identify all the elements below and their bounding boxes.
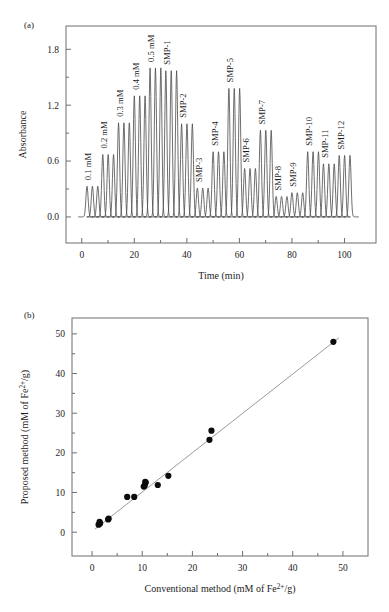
y-tick-label: 20 — [56, 448, 66, 458]
x-tick-label: 40 — [182, 250, 192, 260]
y-tick-label: 0.6 — [47, 156, 59, 166]
chromatogram-plot: 0.00.61.21.8020406080100Time (min)Absorb… — [0, 0, 389, 300]
data-point — [165, 473, 171, 479]
peak-group-label: 0.2 mM — [99, 121, 109, 149]
x-axis-title: Time (min) — [198, 270, 243, 282]
peak-group-label: SMP-10 — [304, 117, 314, 146]
peak-group-label: SMP-5 — [225, 58, 235, 82]
peak-group-label: 0.1 mM — [83, 153, 93, 181]
regression-line — [95, 338, 339, 529]
y-tick-label: 1.2 — [47, 101, 59, 111]
peak-group-label: SMP-11 — [320, 129, 330, 157]
data-point — [330, 339, 336, 345]
x-tick-label: 100 — [337, 250, 352, 260]
data-point — [131, 494, 137, 500]
x-tick-label: 20 — [188, 563, 198, 573]
method-comparison-plot: 0102030405001020304050Conventional metho… — [0, 296, 389, 612]
peak-group-label: SMP-9 — [288, 162, 298, 186]
peak-group-label: SMP-6 — [241, 137, 251, 162]
x-tick-label: 50 — [338, 563, 348, 573]
x-axis-title: Conventional method (mM of Fe2+/g) — [145, 583, 296, 595]
data-point — [124, 494, 130, 500]
figure-container: (a) 0.00.61.21.8020406080100Time (min)Ab… — [0, 0, 389, 612]
x-tick-label: 60 — [235, 250, 245, 260]
peak-group-label: SMP-12 — [336, 121, 346, 150]
data-point — [106, 516, 112, 522]
y-tick-label: 1.8 — [47, 45, 59, 55]
peak-group-label: SMP-8 — [273, 166, 283, 190]
peak-group-label: SMP-7 — [257, 99, 267, 124]
x-tick-label: 0 — [90, 563, 95, 573]
panel-a-label: (a) — [24, 20, 34, 30]
plot-frame — [72, 318, 368, 556]
data-point — [96, 519, 102, 525]
y-tick-label: 30 — [56, 409, 66, 419]
peak-group-label: SMP-1 — [162, 40, 172, 64]
panel-b-label: (b) — [24, 310, 35, 320]
x-tick-label: 30 — [238, 563, 248, 573]
x-tick-label: 0 — [79, 250, 84, 260]
x-tick-label: 80 — [287, 250, 297, 260]
y-tick-label: 40 — [56, 369, 66, 379]
y-tick-label: 50 — [56, 329, 66, 339]
y-tick-label: 10 — [56, 488, 66, 498]
panel-a-chromatogram: (a) 0.00.61.21.8020406080100Time (min)Ab… — [0, 0, 389, 300]
y-axis-title: Proposed method (mM of Fe2+/g) — [19, 370, 31, 504]
x-tick-label: 10 — [137, 563, 147, 573]
data-point — [155, 482, 161, 488]
peak-group-label: SMP-2 — [178, 93, 188, 117]
data-point — [206, 437, 212, 443]
y-axis-title: Absorbance — [17, 110, 28, 158]
peak-group-label: 0.4 mM — [131, 62, 141, 90]
data-point — [208, 428, 214, 434]
x-tick-label: 40 — [288, 563, 298, 573]
peak-group-label: SMP-4 — [210, 121, 220, 146]
y-tick-label: 0.0 — [47, 212, 59, 222]
panel-b-scatter: (b) 0102030405001020304050Conventional m… — [0, 296, 389, 612]
x-tick-label: 20 — [130, 250, 140, 260]
y-tick-label: 0 — [60, 528, 65, 538]
peak-group-label: 0.5 mM — [146, 34, 156, 62]
peak-group-label: 0.3 mM — [115, 89, 125, 117]
peak-group-label: SMP-3 — [194, 158, 204, 182]
data-point — [142, 479, 148, 485]
